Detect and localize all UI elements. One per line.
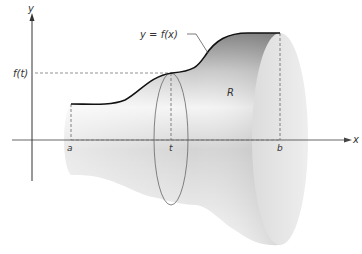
b-label: b [277,143,283,153]
y-axis-arrow-icon [30,13,35,21]
y-axis-label: y [27,3,35,14]
x-axis-label: x [352,134,359,145]
region-label: R [227,87,234,98]
a-label: a [67,143,73,153]
curve-label-leader [187,34,208,53]
diagram-canvas: y x f(t) y = f(x) R a t b [0,0,362,254]
solid-shading [64,33,280,245]
t-label: t [169,143,173,153]
curve-label: y = f(x) [139,29,178,40]
solid-of-revolution-figure: y x f(t) y = f(x) R a t b [0,0,362,254]
f-t-label: f(t) [13,68,28,79]
x-axis-arrow-icon [344,138,352,143]
